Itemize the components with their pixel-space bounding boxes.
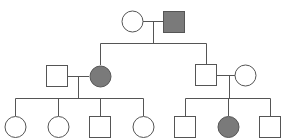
- male-affected-I-2: [164, 12, 185, 33]
- female-unaffected-III-1: [5, 117, 26, 138]
- female-unaffected-II-4: [235, 65, 256, 86]
- male-unaffected-III-7: [260, 117, 281, 138]
- female-unaffected-I-1: [122, 11, 143, 32]
- pedigree-chart: [0, 0, 292, 139]
- female-affected-III-6: [218, 117, 239, 138]
- male-unaffected-III-3: [90, 117, 111, 138]
- female-unaffected-III-4: [133, 117, 154, 138]
- female-affected-II-2: [90, 66, 111, 87]
- female-unaffected-III-2: [48, 117, 69, 138]
- individuals: [5, 11, 281, 138]
- male-unaffected-III-5: [175, 117, 196, 138]
- male-unaffected-II-3: [196, 65, 217, 86]
- male-unaffected-II-1: [47, 66, 68, 87]
